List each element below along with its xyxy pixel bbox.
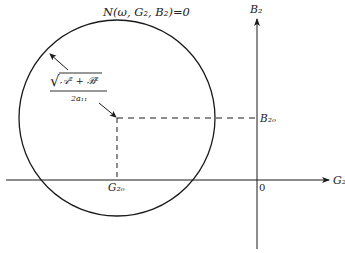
radius-denominator: 2a₁₁ <box>70 94 87 103</box>
b2o-label: B₂ₒ <box>259 112 276 124</box>
circle-equation-label: N(ω, G₂, B₂)=0 <box>102 5 190 19</box>
g2o-label: G₂ₒ <box>108 181 125 193</box>
radius-arrow-to-circle <box>50 54 68 70</box>
radius-numerator: 𝒜² + ℬ² <box>60 75 99 86</box>
diagram-canvas: N(ω, G₂, B₂)=0 B₂ G₂ 0 B₂ₒ G₂ₒ √ 𝒜² + ℬ²… <box>0 0 345 253</box>
radius-sqrt-sign: √ <box>50 72 60 90</box>
g2-axis-label: G₂ <box>333 174 345 187</box>
origin-label: 0 <box>259 182 265 193</box>
radius-arrow-to-center <box>99 103 116 117</box>
b2-axis-label: B₂ <box>249 3 263 16</box>
